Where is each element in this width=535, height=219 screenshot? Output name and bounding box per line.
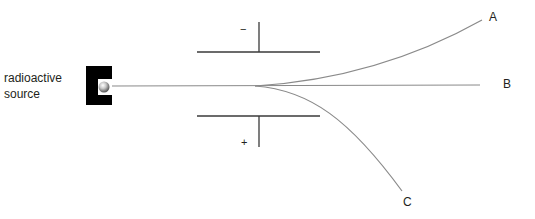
beam-a-label: A [489,10,497,24]
source-label: radioactive source [4,70,62,102]
positive-sign: + [241,135,247,149]
negative-sign: − [240,22,246,36]
radioactive-sample-icon [99,82,110,93]
beam-b-label: B [503,77,511,91]
source-label-line1: radioactive [4,70,62,86]
beam-b [112,85,480,86]
beam-c-label: C [403,195,412,209]
negative-plate [197,22,320,52]
diagram-canvas [0,0,535,219]
source-label-line2: source [4,86,62,102]
beam-a [255,20,482,86]
radioactive-source-block [86,66,112,105]
positive-plate [197,116,320,147]
beam-c [255,86,402,191]
